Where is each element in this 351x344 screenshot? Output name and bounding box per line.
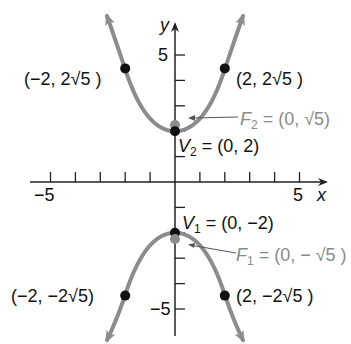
label-f2: F2 = (0, √5) — [240, 110, 330, 131]
label-v2: V2 = (0, 2) — [178, 137, 259, 158]
focus-f1-dot — [170, 234, 180, 244]
f1-name: F — [236, 245, 247, 265]
x-axis-label: x — [317, 186, 326, 204]
lower-branch-left — [107, 233, 175, 340]
v2-sub: 2 — [190, 145, 197, 159]
v1-name: V — [182, 213, 194, 233]
y-axis-label: y — [160, 16, 169, 34]
y-tick-5: 5 — [158, 46, 168, 64]
label-upper-right: (2, 2√5 ) — [236, 70, 303, 88]
f1-value: = (0, − √5 ) — [254, 245, 347, 265]
label-v1: V1 = (0, −2) — [182, 214, 274, 235]
label-lower-right: (2, −2√5 ) — [236, 287, 313, 305]
x-tick-neg5: −5 — [34, 186, 55, 204]
f1-pointer — [190, 245, 236, 253]
point-lower-left-dot — [120, 291, 130, 301]
f2-sub: 2 — [251, 118, 258, 132]
upper-branch — [175, 16, 243, 131]
f2-pointer — [190, 117, 238, 118]
label-lower-left: (−2, −2√5) — [11, 287, 94, 305]
v1-value: = (0, −2) — [201, 213, 274, 233]
f1-sub: 1 — [247, 254, 254, 268]
vertex-v2-dot — [170, 126, 180, 136]
point-upper-right-dot — [220, 63, 230, 73]
x-tick-5: 5 — [293, 186, 303, 204]
x-axis — [30, 172, 326, 182]
v1-sub: 1 — [194, 222, 201, 236]
label-upper-left: (−2, 2√5 ) — [24, 70, 101, 88]
point-lower-right-dot — [220, 291, 230, 301]
v2-value: = (0, 2) — [197, 136, 260, 156]
lower-branch-right — [175, 233, 243, 340]
f2-value: = (0, √5) — [258, 109, 330, 129]
v2-name: V — [178, 136, 190, 156]
point-upper-left-dot — [120, 63, 130, 73]
label-f1: F1 = (0, − √5 ) — [236, 246, 347, 267]
y-tick-neg5: −5 — [150, 300, 171, 318]
y-axis — [175, 24, 185, 336]
f2-name: F — [240, 109, 251, 129]
